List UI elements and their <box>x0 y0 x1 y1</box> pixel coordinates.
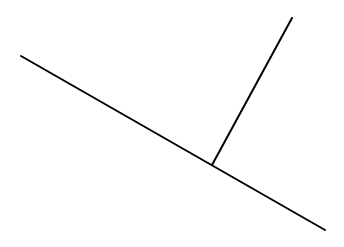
perpendicular-line <box>212 18 292 165</box>
base-line <box>21 56 325 230</box>
diagram-canvas <box>0 0 344 247</box>
line-diagram <box>0 0 344 247</box>
